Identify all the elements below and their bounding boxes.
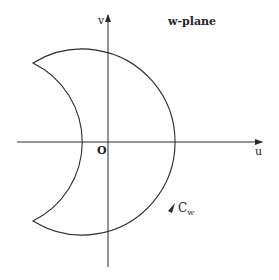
plane-title: w-plane bbox=[167, 15, 216, 28]
v-axis-label: v bbox=[97, 14, 105, 27]
contour-direction-arrow-icon bbox=[168, 203, 175, 213]
contour-label-main: C bbox=[178, 201, 187, 215]
w-plane-diagram: v w-plane O u Cw bbox=[0, 0, 279, 280]
origin-label: O bbox=[97, 144, 107, 157]
u-axis-label: u bbox=[255, 145, 262, 158]
contour-label: Cw bbox=[178, 201, 194, 217]
contour-label-subscript: w bbox=[187, 208, 194, 217]
